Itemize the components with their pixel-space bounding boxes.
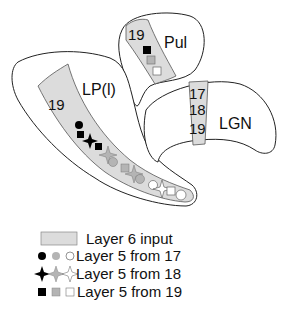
lgn-band-label-19: 19: [189, 120, 206, 137]
circle-gray-icon: [52, 252, 60, 260]
circle-white-icon: [66, 252, 74, 260]
square-gray-icon: [121, 164, 129, 172]
square-gray-icon: [147, 56, 155, 64]
pul-band-label: 19: [128, 26, 145, 43]
square-white-icon: [167, 187, 175, 195]
circle-black-icon: [38, 252, 46, 260]
legend-item-layer5-19: Layer 5 from 19: [38, 283, 182, 300]
legend-item-layer5-17: Layer 5 from 17: [38, 247, 181, 264]
legend-item-layer6: Layer 6 input: [41, 230, 174, 247]
square-white-icon: [153, 67, 161, 75]
lgn-label: LGN: [219, 115, 252, 132]
square-black-icon: [143, 46, 151, 54]
circle-gray-icon: [136, 175, 145, 184]
circle-gray-icon: [109, 158, 118, 167]
square-black-icon: [77, 131, 84, 138]
pul-label: Pul: [164, 34, 187, 51]
legend-label: Layer 5 from 19: [77, 283, 182, 300]
lp-label: LP(l): [82, 81, 116, 98]
legend-label: Layer 6 input: [86, 230, 174, 247]
lp-band-label: 19: [48, 96, 65, 113]
legend-label: Layer 5 from 18: [76, 265, 181, 282]
circle-white-icon: [176, 190, 186, 200]
legend-item-layer5-18: Layer 5 from 18: [34, 265, 181, 282]
lgn-band-label-17: 17: [189, 85, 206, 102]
circle-black-icon: [75, 121, 83, 129]
gray-band-swatch-icon: [41, 232, 77, 245]
lgn-region: 17 18 19 LGN: [144, 81, 276, 162]
lgn-band-label-18: 18: [189, 101, 206, 118]
legend: Layer 6 input Layer 5 from 17 Layer 5 fr…: [34, 230, 182, 300]
thalamus-diagram: 19 Pul 19 LP(l) 17 18 19 LGN: [0, 0, 284, 318]
square-gray-icon: [52, 288, 60, 296]
square-white-icon: [66, 288, 74, 296]
square-black-icon: [38, 288, 46, 296]
square-black-icon: [95, 143, 102, 150]
legend-label: Layer 5 from 17: [76, 247, 181, 264]
